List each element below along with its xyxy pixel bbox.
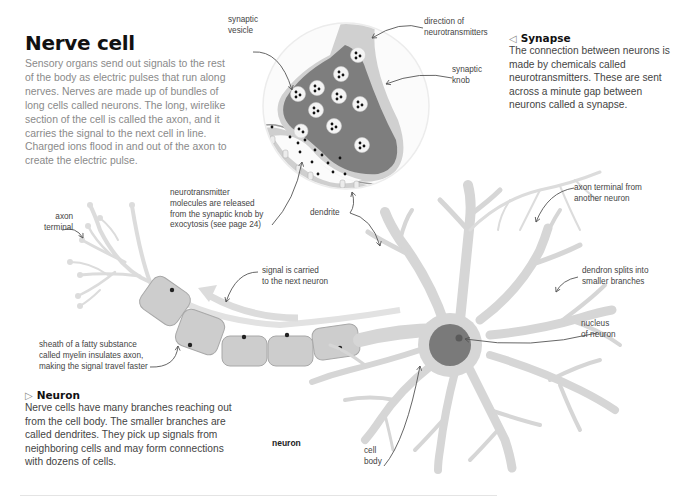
synapse-heading-text: Synapse — [521, 32, 571, 44]
label-line: knob — [452, 76, 482, 87]
triangle-left-icon: ◁ — [509, 33, 517, 44]
label-line: making the signal travel faster — [39, 362, 148, 373]
synapse-panel: ◁Synapse The connection between neurons … — [509, 32, 679, 112]
neuron-heading-text: Neuron — [37, 389, 80, 401]
label-line: signal is carried — [262, 266, 328, 277]
label-signal-carried: signal is carried to the next neuron — [262, 266, 328, 288]
synapse-body: The connection between neurons is made b… — [509, 44, 679, 112]
label-direction-of-neurotransmitters: direction of neurotransmitters — [424, 17, 488, 39]
neuron-body: Nerve cells have many branches reaching … — [25, 401, 240, 469]
nucleus — [429, 324, 471, 366]
terminal-buttons — [67, 202, 135, 309]
label-line: exocytosis (see page 24) — [170, 220, 263, 231]
axon-terminal-branches — [70, 205, 150, 306]
label-line: from the synaptic knob by — [170, 210, 263, 221]
label-line: cell — [364, 446, 382, 457]
footer-divider — [20, 495, 497, 496]
neuron-heading: ▷Neuron — [25, 389, 240, 401]
label-line: neurotransmitter — [170, 188, 263, 199]
label-line: nucleus — [581, 319, 616, 330]
label-line: molecules are released — [170, 199, 263, 210]
label-line: synaptic — [228, 15, 258, 26]
page-title: Nerve cell — [25, 31, 135, 55]
label-neuron: neuron — [272, 438, 301, 449]
label-myelin-sheath: sheath of a fatty substance called myeli… — [39, 340, 148, 372]
label-line: called myelin insulates axon, — [39, 351, 148, 362]
label-line: sheath of a fatty substance — [39, 340, 148, 351]
label-line: direction of — [424, 17, 488, 28]
label-synaptic-vesicle: synaptic vesicle — [228, 15, 258, 37]
label-line: dendron splits into — [582, 266, 648, 277]
label-line: of neuron — [581, 330, 616, 341]
label-neurotransmitter-release: neurotransmitter molecules are released … — [170, 188, 263, 231]
neuron-panel: ▷Neuron Nerve cells have many branches r… — [25, 389, 240, 469]
label-cell-body: cell body — [364, 446, 382, 468]
label-line: neurotransmitters — [424, 28, 488, 39]
synapse-magnified-view — [250, 20, 440, 200]
label-line: synaptic — [452, 65, 482, 76]
label-dendron-splits: dendron splits into smaller branches — [582, 266, 648, 288]
label-line: axon — [44, 212, 73, 223]
label-line: terminal — [44, 223, 73, 234]
nucleolus — [456, 335, 463, 342]
synapse-heading: ◁Synapse — [509, 32, 679, 44]
label-line: vesicle — [228, 26, 258, 37]
triangle-right-icon: ▷ — [25, 390, 33, 401]
label-axon-terminal: axon terminal — [44, 212, 73, 234]
label-synaptic-knob: synaptic knob — [452, 65, 482, 87]
label-nucleus: nucleus of neuron — [581, 319, 616, 341]
label-line: axon terminal from — [574, 183, 642, 194]
label-dendrite: dendrite — [310, 208, 340, 219]
label-line: smaller branches — [582, 277, 648, 288]
label-line: to the next neuron — [262, 277, 328, 288]
label-axon-terminal-other: axon terminal from another neuron — [574, 183, 642, 205]
label-line: another neuron — [574, 194, 642, 205]
label-line: body — [364, 457, 382, 468]
intro-paragraph: Sensory organs send out signals to the r… — [25, 57, 235, 168]
